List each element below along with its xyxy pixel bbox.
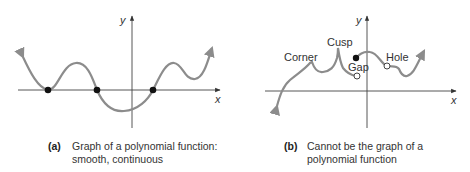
panel-a-polynomial-curve (23, 48, 212, 111)
panel-b-x-label: x (450, 94, 457, 106)
panel-a-caption: (a) Graph of a polynomial function: smoo… (48, 140, 238, 170)
panel-a-zero-dot-2 (94, 87, 101, 94)
panel-b-hole-open-dot (384, 63, 390, 69)
panel-a-caption-tag: (a) (48, 140, 61, 153)
panel-b-caption-tag: (b) (284, 140, 297, 153)
panel-b-caption-line-1: Cannot be the graph of a (307, 140, 423, 153)
panel-b-caption-line-2: polynomial function (307, 153, 397, 166)
panel-a-x-label: x (214, 93, 221, 105)
panel-b-hole-label: Hole (386, 51, 409, 63)
panel-b-caption: (b) Cannot be the graph of a polynomial … (284, 140, 464, 170)
panel-b-y-label: y (355, 14, 363, 26)
panel-b-gap-open-dot (354, 73, 360, 79)
panel-a-caption-line-2: smooth, continuous (72, 153, 163, 166)
panel-a-y-label: y (119, 14, 127, 26)
panel-b-graph: x y Corner Cusp Gap Hole (265, 14, 457, 128)
panel-a-zero-dot-3 (150, 87, 157, 94)
panel-b-cusp-label: Cusp (327, 36, 353, 48)
panel-b-gap-label: Gap (348, 61, 369, 73)
panel-a-zero-dot-1 (45, 87, 52, 94)
panel-a-caption-line-1: Graph of a polynomial function: (72, 140, 217, 153)
panel-a-graph: x y (18, 14, 221, 128)
panel-b-corner-label: Corner (284, 51, 318, 63)
